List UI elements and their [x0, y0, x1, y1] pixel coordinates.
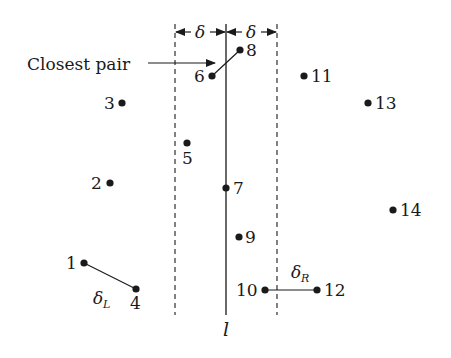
svg-text:5: 5 [182, 148, 193, 168]
svg-text:9: 9 [245, 227, 256, 247]
delta-l-label: δ L [93, 288, 110, 311]
svg-text:δ: δ [93, 288, 103, 308]
point-9: 9 [235, 227, 255, 247]
delta-left-segment [84, 263, 136, 289]
svg-text:10: 10 [236, 280, 258, 300]
point-1: 1 [66, 253, 88, 273]
svg-text:14: 14 [400, 200, 422, 220]
svg-text:L: L [102, 298, 110, 311]
point-5: 5 [182, 139, 193, 168]
delta-r-label: δ R [291, 262, 309, 285]
point-8: 8 [236, 40, 256, 60]
svg-text:δ: δ [291, 262, 301, 282]
closest-pair-diagram: δ δ Closest pair δ L δ R l 1 [0, 0, 451, 358]
point-13: 13 [364, 93, 396, 113]
svg-text:11: 11 [311, 66, 333, 86]
point-10: 10 [236, 280, 269, 300]
point-6: 6 [194, 66, 216, 86]
svg-text:13: 13 [375, 93, 397, 113]
delta-left-width-arrow: δ [176, 22, 225, 42]
svg-text:R: R [300, 272, 309, 285]
svg-text:8: 8 [246, 40, 257, 60]
svg-text:12: 12 [324, 280, 346, 300]
svg-text:2: 2 [91, 173, 102, 193]
svg-text:6: 6 [194, 66, 205, 86]
point-4: 4 [130, 285, 141, 313]
delta-right-width-label: δ [246, 22, 256, 42]
svg-text:1: 1 [66, 253, 77, 273]
point-14: 14 [389, 200, 421, 220]
point-11: 11 [300, 66, 332, 86]
svg-text:4: 4 [130, 293, 141, 313]
point-3: 3 [104, 93, 126, 113]
point-12: 12 [313, 280, 345, 300]
dividing-line-label: l [223, 318, 229, 340]
delta-right-width-arrow: δ [227, 22, 276, 42]
svg-text:7: 7 [233, 178, 244, 198]
point-2: 2 [91, 173, 114, 193]
closest-pair-caption: Closest pair [27, 54, 131, 74]
svg-text:3: 3 [104, 93, 115, 113]
delta-left-width-label: δ [195, 22, 205, 42]
